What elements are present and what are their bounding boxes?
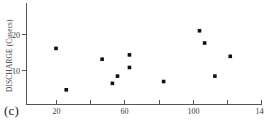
data-point [128,53,132,57]
data-point [54,47,58,51]
x-tick-label: 100 [188,107,200,116]
data-point [128,66,132,70]
data-point [228,55,232,59]
data-point [203,41,207,45]
data-point [116,74,120,78]
data-point [64,88,68,92]
data-point [100,57,104,61]
data-point [198,29,202,33]
data-point [162,80,166,84]
data-points [54,29,232,92]
x-tick-label: 140 [256,107,265,116]
data-point [111,82,115,86]
scatter-plot: DISCHARGE (Cusecs) 1020 2060100140 [0,0,264,128]
data-point [213,74,217,78]
y-tick-label: 20 [12,31,20,40]
x-tick-label: 60 [121,107,129,116]
x-axis-tick-labels: 2060100140 [53,107,265,116]
figure-caption: (c) [4,104,19,117]
figure-panel-c: DISCHARGE (Cusecs) 1020 2060100140 (c) [0,0,264,128]
y-tick-label: 10 [12,67,20,76]
x-tick-label: 20 [53,107,61,116]
